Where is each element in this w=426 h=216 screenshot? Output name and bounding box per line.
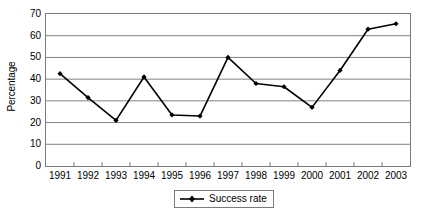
x-axis-tick-label: 1992 (77, 170, 99, 182)
y-axis-tick-label: 30 (30, 96, 41, 106)
y-axis-tick-label: 70 (30, 9, 41, 19)
y-axis-tick-labels: 706050403020100 (20, 0, 44, 180)
x-axis-tick-label: 2003 (385, 170, 407, 182)
x-axis-ticks (74, 162, 382, 166)
x-axis-tick-label: 2002 (357, 170, 379, 182)
y-axis-title-label: Percentage (6, 61, 17, 111)
plot-svg (46, 14, 410, 166)
y-axis-tick-label: 60 (30, 31, 41, 41)
y-axis-tick-label: 20 (30, 118, 41, 128)
line-chart-figure: Percentage 706050403020100 1991199219931… (0, 0, 426, 216)
data-point-marker (197, 113, 202, 118)
data-point-marker (393, 21, 398, 26)
x-axis-tick-labels: 1991199219931994199519961997199819992000… (45, 170, 411, 186)
chart-legend: Success rate (174, 190, 274, 208)
y-axis-tick-label: 0 (35, 161, 41, 171)
line-marker-icon (179, 194, 205, 204)
x-axis-tick-label: 1999 (273, 170, 295, 182)
y-axis-tick-label: 50 (30, 52, 41, 62)
series-line-success-rate (60, 24, 396, 121)
legend-entry-label: Success rate (209, 193, 267, 205)
x-axis-tick-label: 1997 (217, 170, 239, 182)
x-axis-tick-label: 1995 (161, 170, 183, 182)
x-axis-tick-label: 1994 (133, 170, 155, 182)
y-axis-tick-label: 10 (30, 139, 41, 149)
x-axis-tick-label: 2000 (301, 170, 323, 182)
plot-area (45, 13, 411, 167)
x-axis-tick-label: 1993 (105, 170, 127, 182)
x-axis-tick-label: 1991 (49, 170, 71, 182)
x-axis-tick-label: 2001 (329, 170, 351, 182)
x-axis-tick-label: 1996 (189, 170, 211, 182)
gridlines (46, 36, 410, 145)
x-axis-tick-label: 1998 (245, 170, 267, 182)
y-axis-title: Percentage (0, 0, 22, 172)
series-markers-success-rate (57, 21, 398, 123)
y-axis-tick-label: 40 (30, 74, 41, 84)
